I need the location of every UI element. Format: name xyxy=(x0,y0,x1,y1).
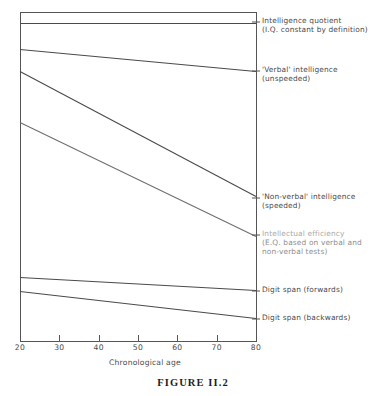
x-tick-label-50: 50 xyxy=(126,343,150,352)
x-tick-label-70: 70 xyxy=(205,343,229,352)
series-line-1 xyxy=(20,50,256,72)
x-tick-label-40: 40 xyxy=(87,343,111,352)
series-label-line: Digit span (forwards) xyxy=(262,285,343,294)
figure-container: 20304050607080 Chronological age Intelli… xyxy=(0,0,386,396)
series-label-line: 'Non-verbal' intelligence xyxy=(262,192,355,201)
x-axis-ticks xyxy=(60,335,218,341)
x-axis-title: Chronological age xyxy=(0,358,338,367)
series-label-5: Digit span (backwards) xyxy=(262,313,351,322)
figure-caption: FIGURE II.2 xyxy=(0,377,386,388)
series-line-2 xyxy=(20,72,256,197)
plot-frame xyxy=(21,13,257,342)
series-label-line: Digit span (backwards) xyxy=(262,313,351,322)
series-label-3: Intellectual efficiency(E.Q. based on ve… xyxy=(262,229,362,257)
series-line-4 xyxy=(20,278,256,291)
series-label-line: Intelligence quotient xyxy=(262,16,341,25)
series-label-line: (speeded) xyxy=(262,201,301,210)
series-label-line: (unspeeded) xyxy=(262,74,310,83)
series-label-4: Digit span (forwards) xyxy=(262,285,343,294)
series-label-line: non-verbal tests) xyxy=(262,247,327,256)
series-label-line: (I.Q. constant by definition) xyxy=(262,25,368,34)
series-label-line: 'Verbal' intelligence xyxy=(262,65,338,74)
data-lines xyxy=(20,24,256,319)
x-tick-label-80: 80 xyxy=(244,343,268,352)
series-label-line: (E.Q. based on verbal and xyxy=(262,238,362,247)
series-label-0: Intelligence quotient(I.Q. constant by d… xyxy=(262,16,368,34)
series-line-5 xyxy=(20,292,256,319)
x-tick-label-20: 20 xyxy=(8,343,32,352)
series-label-1: 'Verbal' intelligence(unspeeded) xyxy=(262,65,338,83)
x-tick-label-30: 30 xyxy=(47,343,71,352)
series-label-2: 'Non-verbal' intelligence(speeded) xyxy=(262,192,355,210)
series-label-line: Intellectual efficiency xyxy=(262,229,345,238)
x-tick-label-60: 60 xyxy=(165,343,189,352)
series-line-3 xyxy=(20,123,256,237)
plot-border xyxy=(21,13,257,342)
